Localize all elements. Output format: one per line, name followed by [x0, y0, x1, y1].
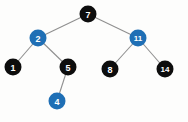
node-label: 14 — [161, 65, 170, 74]
node-label: 11 — [134, 34, 143, 43]
nodes-group: 7211158144 — [5, 6, 174, 110]
tree-node[interactable]: 2 — [30, 30, 47, 47]
tree-node[interactable]: 11 — [130, 30, 147, 47]
tree-node[interactable]: 1 — [5, 59, 22, 76]
binary-tree-graphic: 7211158144 — [0, 0, 188, 122]
tree-node[interactable]: 8 — [102, 61, 119, 78]
node-label: 1 — [10, 63, 15, 73]
tree-node[interactable]: 4 — [49, 93, 66, 110]
tree-node[interactable]: 5 — [60, 59, 77, 76]
tree-node[interactable]: 7 — [80, 6, 97, 23]
tree-node[interactable]: 14 — [157, 61, 174, 78]
edges-group — [13, 14, 165, 101]
node-label: 4 — [54, 97, 59, 107]
tree-diagram-canvas: 7211158144 — [0, 0, 188, 122]
node-label: 2 — [35, 34, 40, 44]
node-label: 7 — [85, 10, 90, 20]
node-label: 5 — [65, 63, 70, 73]
node-label: 8 — [107, 65, 112, 75]
